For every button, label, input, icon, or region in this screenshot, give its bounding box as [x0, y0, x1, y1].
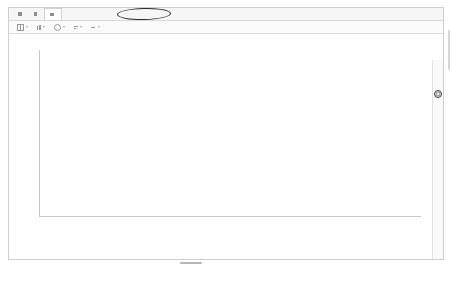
bar-series	[39, 50, 421, 217]
chevron-down-icon	[98, 26, 100, 28]
grid-icon	[17, 24, 24, 31]
size-button[interactable]	[91, 25, 100, 30]
vertical-scrollbar[interactable]	[448, 30, 450, 70]
bars-icon	[37, 25, 42, 30]
grid-view-button[interactable]	[17, 24, 28, 31]
plot-area	[39, 50, 421, 217]
chevron-down-icon	[80, 26, 82, 28]
sort-button[interactable]	[74, 25, 83, 30]
sort-icon	[74, 25, 79, 30]
app-root	[0, 0, 452, 285]
tab-tweetcount-on-twitter[interactable]	[29, 9, 45, 20]
tab-strip	[9, 8, 443, 21]
horizontal-scrollbar[interactable]	[180, 262, 202, 264]
sheet-icon	[50, 13, 54, 17]
chevron-down-icon	[43, 26, 45, 28]
circle-icon	[54, 24, 61, 31]
application-window	[8, 7, 444, 260]
highlighter-icon[interactable]	[434, 90, 442, 98]
sheet-icon	[18, 12, 22, 16]
tab-series-descriptor[interactable]	[13, 9, 29, 20]
sheet-icon	[34, 12, 38, 16]
circle-mark-button[interactable]	[54, 24, 65, 31]
chart-canvas	[9, 34, 443, 259]
tab-cluster-data[interactable]	[44, 8, 62, 20]
right-sidebar	[432, 60, 443, 259]
bar-chart-button[interactable]	[37, 25, 46, 30]
chevron-down-icon	[26, 26, 28, 28]
toolbar	[9, 21, 443, 34]
chevron-down-icon	[63, 26, 65, 28]
x-axis-labels	[39, 217, 421, 249]
dash-icon	[91, 25, 96, 30]
